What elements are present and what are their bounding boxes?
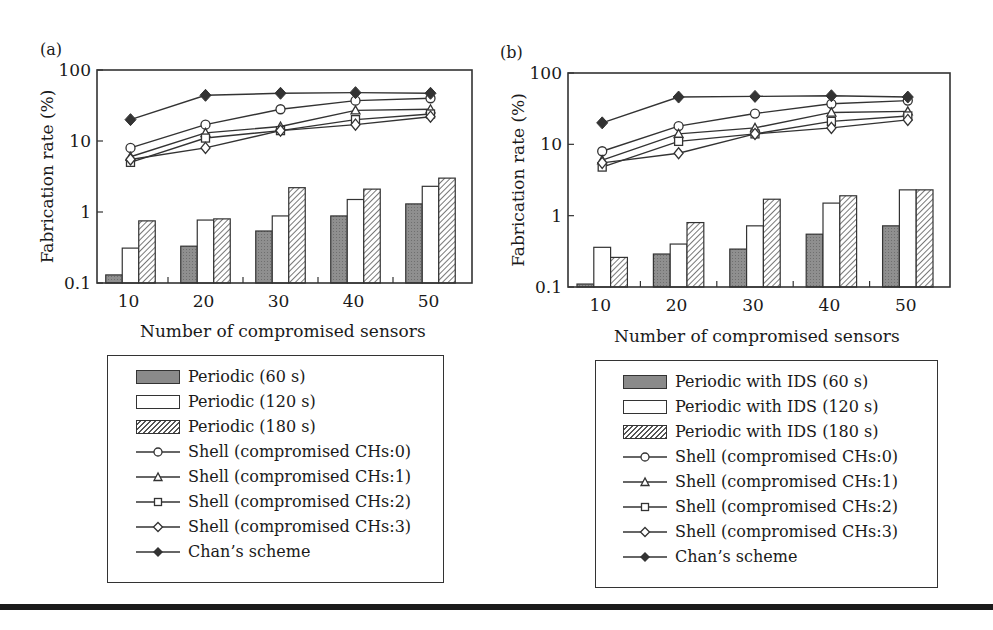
x-tick-label: 50 (418, 291, 440, 311)
x-tick-label: 10 (118, 291, 140, 311)
bar-periodic-120 (347, 199, 364, 283)
marker-diamond-filled (350, 87, 361, 99)
x-axis-label-a: Number of compromised sensors (140, 321, 426, 341)
legend-item: Shell (compromised CHs:2) (136, 489, 443, 514)
y-axis-label: Fabrication rate (%) (508, 93, 528, 267)
legend-item: Shell (compromised CHs:3) (136, 514, 443, 539)
x-tick-label: 30 (268, 291, 290, 311)
x-tick-label: 20 (666, 295, 688, 315)
bar-periodic-60 (106, 275, 123, 283)
legend-label: Periodic with IDS (120 s) (675, 397, 878, 416)
triangle-marker-icon (136, 470, 188, 484)
legend-label: Shell (compromised CHs:0) (188, 442, 411, 461)
legend-item: Shell (compromised CHs:2) (623, 494, 937, 519)
legend-label: Shell (compromised CHs:2) (188, 492, 411, 511)
bar-periodic-180 (439, 178, 456, 283)
legend-label: Chan’s scheme (675, 547, 797, 566)
legend-label: Periodic with IDS (180 s) (675, 422, 878, 441)
bar-periodic-60 (256, 231, 273, 283)
diamond-filled-marker-icon (623, 550, 675, 564)
x-tick-label: 50 (895, 295, 917, 315)
marker-diamond-filled (597, 117, 608, 129)
bar-periodic-180 (611, 257, 628, 287)
y-tick-label: 100 (530, 63, 562, 83)
marker-diamond-filled (750, 90, 761, 102)
marker-circle (276, 105, 285, 114)
bar-periodic-180 (139, 221, 156, 283)
bar-periodic-60 (331, 216, 348, 283)
marker-square (675, 137, 683, 145)
y-tick-label: 10 (540, 134, 562, 154)
bar-periodic-180 (364, 189, 381, 283)
legend-label: Shell (compromised CHs:3) (675, 522, 898, 541)
bar-periodic-60 (883, 226, 900, 287)
legend-a: Periodic (60 s)Periodic (120 s)Periodic … (107, 355, 444, 583)
bar-white-swatch-icon (623, 400, 667, 414)
bar-periodic-180 (214, 219, 231, 283)
marker-diamond-open (674, 148, 683, 159)
x-axis-label-b: Number of compromised sensors (614, 326, 900, 346)
marker-diamond-filled (826, 90, 837, 102)
legend-label: Periodic (180 s) (188, 417, 316, 436)
x-tick-label: 40 (819, 295, 841, 315)
bar-periodic-60 (653, 254, 670, 287)
bar-periodic-180 (916, 190, 933, 287)
marker-square (202, 134, 210, 142)
legend-label: Periodic with IDS (60 s) (675, 372, 868, 391)
y-tick-label: 100 (59, 60, 91, 80)
y-tick-label: 0.1 (535, 277, 562, 297)
y-tick-label: 1 (551, 206, 562, 226)
legend-item: Periodic (180 s) (136, 414, 443, 439)
bar-periodic-120 (422, 186, 439, 283)
legend-item: Chan’s scheme (136, 539, 443, 564)
page-divider (0, 604, 993, 610)
legend-item: Periodic with IDS (120 s) (623, 394, 937, 419)
marker-circle (751, 109, 760, 118)
square-marker-icon (136, 495, 188, 509)
marker-diamond-filled (673, 91, 684, 103)
legend-label: Shell (compromised CHs:3) (188, 517, 411, 536)
legend-label: Shell (compromised CHs:0) (675, 447, 898, 466)
legend-item: Shell (compromised CHs:0) (136, 439, 443, 464)
bar-periodic-120 (272, 216, 289, 283)
bar-periodic-120 (594, 247, 611, 287)
bar-periodic-120 (747, 226, 764, 287)
y-tick-label: 1 (80, 202, 91, 222)
diamond-open-marker-icon (136, 520, 188, 534)
legend-item: Shell (compromised CHs:0) (623, 444, 937, 469)
bar-periodic-180 (289, 188, 306, 283)
bar-periodic-60 (806, 234, 823, 287)
bar-periodic-60 (181, 246, 198, 283)
bar-gray-swatch-icon (136, 370, 180, 384)
x-tick-label: 40 (343, 291, 365, 311)
square-marker-icon (623, 500, 675, 514)
bar-periodic-180 (687, 223, 704, 287)
bar-periodic-180 (763, 199, 780, 287)
bar-periodic-120 (122, 248, 139, 283)
circle-marker-icon (136, 445, 188, 459)
legend-b: Periodic with IDS (60 s)Periodic with ID… (595, 360, 938, 588)
legend-item: Chan’s scheme (623, 544, 937, 569)
bar-hatched-swatch-icon (623, 425, 667, 439)
bar-periodic-120 (670, 244, 687, 287)
bar-periodic-180 (840, 196, 857, 287)
y-axis-label: Fabrication rate (%) (37, 90, 57, 264)
bar-periodic-120 (899, 190, 916, 287)
marker-diamond-open (201, 142, 210, 153)
chart-b: 1001010.11020304050Fabrication rate (%) (508, 63, 950, 315)
diamond-open-marker-icon (623, 525, 675, 539)
bar-periodic-120 (823, 203, 840, 287)
legend-item: Periodic (60 s) (136, 364, 443, 389)
legend-item: Shell (compromised CHs:1) (623, 469, 937, 494)
bar-periodic-60 (730, 249, 747, 287)
bar-gray-swatch-icon (623, 375, 667, 389)
y-tick-label: 10 (69, 131, 91, 151)
legend-label: Shell (compromised CHs:1) (675, 472, 898, 491)
circle-marker-icon (623, 450, 675, 464)
bar-periodic-60 (406, 204, 423, 283)
diamond-filled-marker-icon (136, 545, 188, 559)
bar-periodic-120 (197, 220, 214, 283)
marker-diamond-filled (275, 87, 286, 99)
legend-label: Shell (compromised CHs:1) (188, 467, 411, 486)
marker-diamond-filled (125, 114, 136, 126)
